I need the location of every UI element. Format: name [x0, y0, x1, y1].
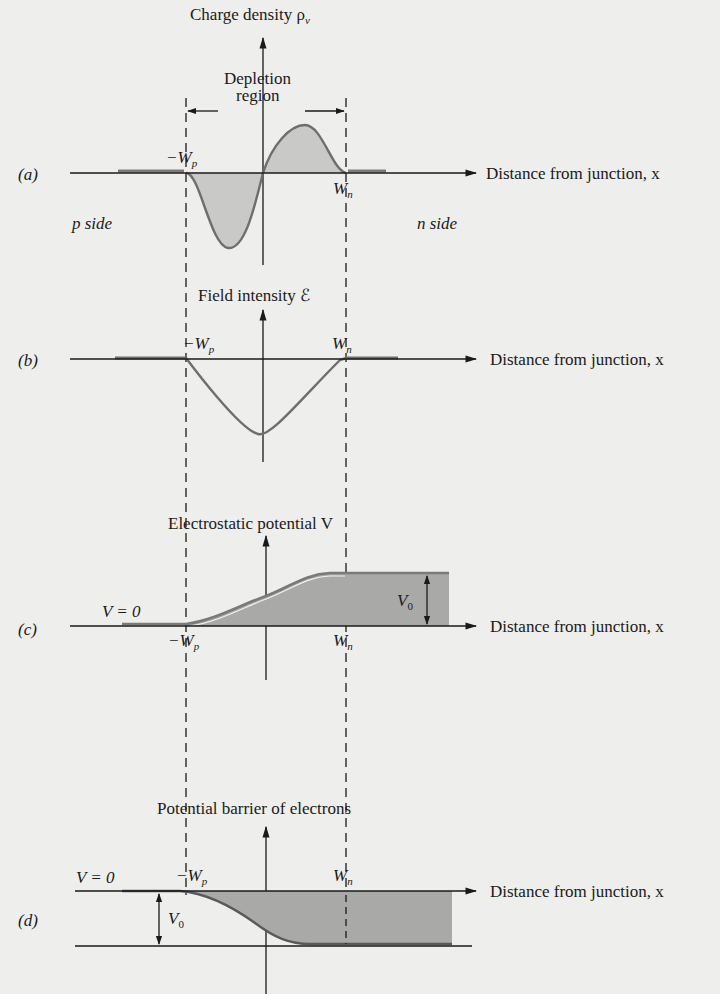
depletion-label-line2: region: [236, 87, 279, 104]
panel-a-x-axis-label: Distance from junction, x: [486, 165, 660, 182]
panel-a-boundary-right: Wn: [333, 180, 353, 200]
panel-c-v0-label: V0: [397, 592, 413, 612]
panel-c-zero-label: V = 0: [102, 603, 141, 620]
pn-junction-diagram: [0, 0, 720, 994]
panel-b-tag: (b): [18, 352, 38, 369]
panel-a-tag: (a): [18, 166, 38, 183]
panel-c-boundary-left: −Wp: [168, 632, 199, 652]
panel-d-y-axis-label: Potential barrier of electrons: [157, 800, 351, 817]
n-side-label: n side: [417, 215, 457, 232]
panel-a-y-axis-label: Charge density ρv: [190, 6, 310, 26]
panel-b-x-axis-label: Distance from junction, x: [490, 351, 664, 368]
panel-c-boundary-right: Wn: [333, 632, 353, 652]
panel-c-y-axis-label: Electrostatic potential V: [168, 515, 333, 532]
panel-b-y-axis-label: Field intensity ℰ: [198, 287, 310, 304]
panel-c-tag: (c): [18, 621, 37, 638]
panel-d-potential-barrier: [75, 827, 476, 994]
panel-d-boundary-left: −Wp: [176, 867, 207, 887]
panel-d-tag: (d): [18, 912, 38, 929]
panel-d-zero-label: V = 0: [76, 869, 115, 886]
panel-b-field-intensity: [70, 310, 476, 462]
panel-b-boundary-right: Wn: [332, 335, 352, 355]
p-side-label: p side: [72, 215, 112, 232]
panel-d-boundary-right: Wn: [333, 867, 353, 887]
panel-c-x-axis-label: Distance from junction, x: [490, 618, 664, 635]
depletion-label-line1: Depletion: [224, 70, 291, 87]
panel-d-v0-label: V0: [168, 910, 184, 930]
panel-d-x-axis-label: Distance from junction, x: [490, 883, 664, 900]
panel-a-boundary-left: −Wp: [166, 149, 197, 169]
panel-b-boundary-left: −Wp: [183, 335, 214, 355]
